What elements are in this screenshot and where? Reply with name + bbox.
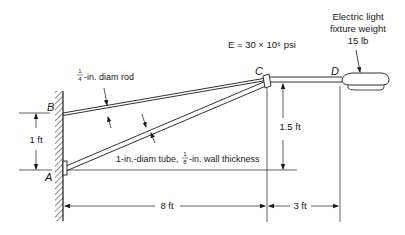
label-dim-c-height: 1.5 ft bbox=[279, 121, 300, 132]
svg-text:1: 1 bbox=[78, 68, 82, 74]
truss-diagram: B A C D E = 30 × 10⁶ psi Electric light … bbox=[0, 0, 405, 235]
rod-bc bbox=[63, 78, 266, 116]
svg-text:4: 4 bbox=[78, 76, 82, 82]
tube-thickness-arrows bbox=[142, 114, 155, 143]
svg-text:-in. diam rod: -in. diam rod bbox=[84, 72, 134, 82]
label-rod: 1 4 -in. diam rod bbox=[77, 68, 134, 82]
svg-text:8: 8 bbox=[183, 159, 187, 165]
svg-text:-in. wall thickness: -in. wall thickness bbox=[189, 154, 260, 164]
label-point-c: C bbox=[255, 65, 263, 77]
svg-text:1: 1 bbox=[183, 151, 187, 157]
label-fixture-line1: Electric light bbox=[332, 11, 384, 22]
fixture-pointer bbox=[356, 50, 360, 72]
label-fixture-line2: fixture weight bbox=[330, 23, 386, 34]
bracket-a bbox=[63, 161, 67, 175]
wall bbox=[55, 91, 63, 221]
label-fixture-line3: 15 lb bbox=[348, 35, 369, 46]
label-dim-span-cd: 3 ft bbox=[293, 200, 307, 211]
arm-cd bbox=[270, 77, 342, 82]
svg-text:1-in.-diam tube,: 1-in.-diam tube, bbox=[116, 154, 179, 164]
label-tube: 1-in.-diam tube, 1 8 -in. wall thickness bbox=[116, 151, 260, 165]
label-modulus: E = 30 × 10⁶ psi bbox=[228, 39, 296, 50]
label-point-b: B bbox=[47, 101, 54, 113]
label-point-a: A bbox=[44, 171, 52, 183]
label-point-d: D bbox=[331, 65, 339, 77]
label-dim-wall-height: 1 ft bbox=[29, 134, 43, 145]
light-fixture bbox=[342, 73, 389, 90]
label-dim-span-ac: 8 ft bbox=[160, 200, 174, 211]
collar-c bbox=[263, 74, 271, 88]
